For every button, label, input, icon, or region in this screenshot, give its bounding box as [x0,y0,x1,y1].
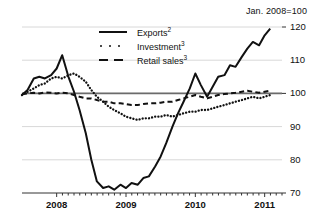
legend-label-exports: Exports2 [137,26,171,38]
dashed-line-key [97,54,129,66]
x-tick-label-2009: 2009 [115,199,136,210]
x-tick-label-2010: 2010 [185,199,206,210]
legend-item-investment: Investment3 [97,40,187,52]
legend-item-exports: Exports2 [97,26,187,38]
y-tick-label-120: 120 [290,21,306,32]
series-line-investment [22,73,270,119]
y-tick-label-80: 80 [290,154,301,165]
x-tick-label-2008: 2008 [46,199,67,210]
index-base-note: Jan. 2008=100 [246,6,307,16]
chart-container: Jan. 2008=100 708090100110120 2008200920… [0,0,315,214]
legend-label-retail-sales: Retail sales3 [137,54,187,66]
y-tick-label-110: 110 [290,54,305,65]
solid-line-key [97,26,129,38]
chart-legend: Exports2 Investment3 Retail sales3 [97,26,187,68]
y-tick-label-100: 100 [290,87,306,98]
legend-label-investment: Investment3 [137,40,185,52]
y-tick-label-70: 70 [290,187,301,198]
y-tick-label-90: 90 [290,121,301,132]
legend-item-retail-sales: Retail sales3 [97,54,187,66]
dotted-line-key [97,40,129,52]
x-tick-label-2011: 2011 [254,199,275,210]
